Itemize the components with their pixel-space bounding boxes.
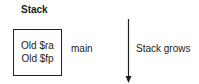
- down-arrow-icon: [124, 19, 134, 83]
- stack-entry-old-fp: Old $fp: [14, 53, 61, 64]
- stack-frame-box: Old $ra Old $fp: [13, 29, 62, 76]
- arrow-label: Stack grows: [136, 43, 190, 54]
- frame-label: main: [71, 43, 93, 54]
- stack-entry-old-ra: Old $ra: [14, 40, 61, 51]
- diagram-title: Stack: [21, 4, 48, 15]
